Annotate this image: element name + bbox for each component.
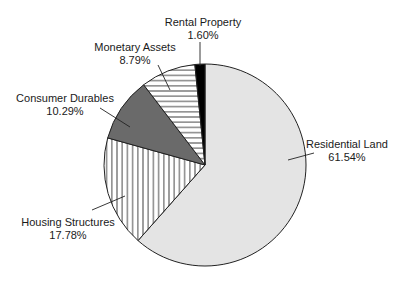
slice-label-housing-structures: Housing Structures xyxy=(21,216,115,228)
slice-value-monetary-assets: 8.79% xyxy=(119,54,150,66)
slice-value-consumer-durables: 10.29% xyxy=(46,105,84,117)
pie-chart: Residential Land61.54%Housing Structures… xyxy=(0,0,401,289)
slice-label-residential-land: Residential Land xyxy=(306,138,388,150)
slice-value-residential-land: 61.54% xyxy=(328,151,366,163)
slice-label-rental-property: Rental Property xyxy=(165,16,242,28)
slice-label-consumer-durables: Consumer Durables xyxy=(16,92,114,104)
slice-value-housing-structures: 17.78% xyxy=(49,229,87,241)
pie-slices xyxy=(104,64,306,266)
slice-label-monetary-assets: Monetary Assets xyxy=(94,41,176,53)
slice-value-rental-property: 1.60% xyxy=(187,29,218,41)
